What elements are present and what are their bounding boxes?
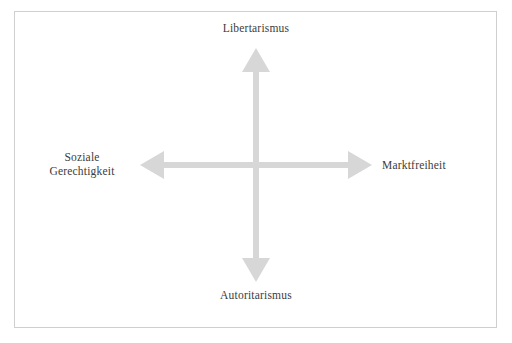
axis-label-autoritarismus: Autoritarismus [0, 288, 512, 302]
axis-label-libertarismus: Libertarismus [0, 21, 512, 35]
axis-label-soziale-gerechtigkeit: Soziale Gerechtigkeit [30, 150, 134, 178]
axis-label-marktfreiheit: Marktfreiheit [382, 158, 502, 172]
